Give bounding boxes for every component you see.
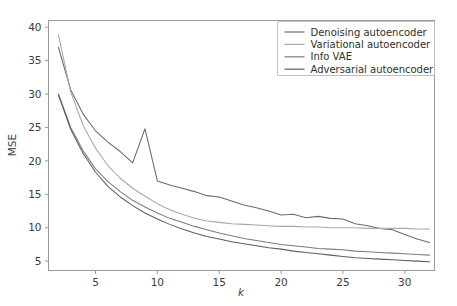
x-tick-label: 10 — [151, 276, 164, 288]
y-tick-label: 20 — [28, 155, 41, 167]
y-tick-label: 25 — [28, 121, 41, 133]
legend-label-2: Info VAE — [311, 51, 352, 62]
y-tick-label: 35 — [28, 54, 41, 66]
series-line-0 — [58, 47, 429, 242]
x-tick-label: 5 — [92, 276, 99, 288]
x-tick-label: 30 — [398, 276, 411, 288]
x-tick-label: 15 — [213, 276, 226, 288]
y-tick-label: 10 — [28, 221, 41, 233]
legend-label-0: Denoising autoencoder — [311, 27, 428, 38]
chart-figure: 51015202530 510152025303540 k MSE Denois… — [0, 0, 457, 306]
x-axis-label: k — [238, 286, 245, 298]
series-line-3 — [58, 95, 429, 262]
legend-label-3: Adversarial autoencoder — [311, 64, 435, 75]
y-tick-label: 15 — [28, 188, 41, 200]
x-tick-label: 25 — [336, 276, 349, 288]
y-tick-label: 40 — [28, 21, 41, 33]
line-chart: 51015202530 510152025303540 k MSE Denois… — [0, 0, 457, 306]
y-axis-ticks: 510152025303540 — [28, 21, 48, 267]
y-tick-label: 5 — [35, 255, 42, 267]
x-axis-ticks: 51015202530 — [92, 271, 411, 288]
x-tick-label: 20 — [274, 276, 287, 288]
legend-label-1: Variational autoencoder — [311, 39, 432, 50]
chart-legend: Denoising autoencoderVariational autoenc… — [278, 22, 435, 76]
y-axis-label: MSE — [6, 134, 18, 156]
y-tick-label: 30 — [28, 88, 41, 100]
series-line-2 — [58, 94, 429, 255]
